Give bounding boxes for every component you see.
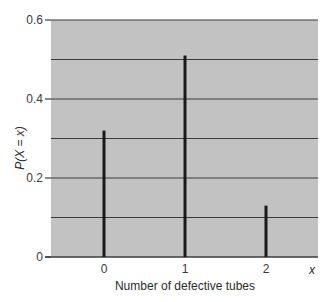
x-axis-title: Number of defective tubes <box>115 279 255 293</box>
probability-spike-chart: 00.20.40.6 012 P(X = x) x Number of defe… <box>0 0 332 302</box>
x-tick-label: 2 <box>263 262 270 276</box>
y-tick-label: 0.4 <box>26 92 43 106</box>
x-axis-symbol: x <box>308 263 316 277</box>
y-axis-ticks: 00.20.40.6 <box>26 13 51 264</box>
x-tick-label: 0 <box>101 262 108 276</box>
y-tick-label: 0.2 <box>26 171 43 185</box>
y-tick-label: 0.6 <box>26 13 43 27</box>
x-tick-label: 1 <box>182 262 189 276</box>
x-axis-ticks: 012 <box>101 262 270 276</box>
y-axis-title: P(X = x) <box>13 126 27 170</box>
y-tick-label: 0 <box>36 250 43 264</box>
